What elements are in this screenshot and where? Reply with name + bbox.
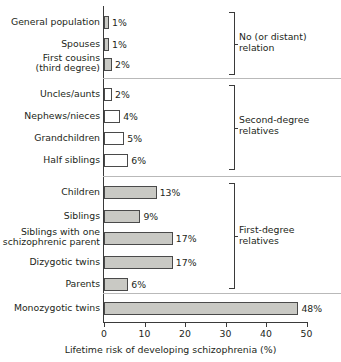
group-separator-2: [103, 176, 341, 177]
x-tick: [145, 322, 146, 327]
bar-row: Uncles/aunts2%: [0, 88, 341, 108]
category-label: First cousins (third degree): [0, 53, 100, 74]
bar-value-label: 6%: [131, 278, 146, 291]
schizophrenia-risk-bar-chart: General population1%Spouses1%First cousi…: [0, 0, 341, 362]
bar: [104, 58, 112, 71]
group-label: Second-degree relatives: [239, 114, 309, 136]
bar: [104, 186, 157, 199]
bar-row: Half siblings6%: [0, 154, 341, 174]
category-label: Parents: [0, 279, 100, 289]
group-label: First-degree relatives: [239, 224, 295, 246]
group-bracket-nub: [235, 236, 238, 237]
bar-value-label: 6%: [131, 154, 146, 167]
bar-row: Dizygotic twins17%: [0, 256, 341, 276]
category-label: Siblings: [0, 211, 100, 221]
bar: [104, 16, 109, 29]
x-tick-label: 0: [92, 328, 116, 339]
x-axis-line: [103, 322, 308, 323]
category-label: Monozygotic twins: [0, 303, 100, 313]
bar-value-label: 17%: [176, 232, 197, 245]
bar-value-label: 5%: [127, 132, 142, 145]
category-label: Dizygotic twins: [0, 257, 100, 267]
bar-value-label: 48%: [301, 302, 322, 315]
bar: [104, 110, 120, 123]
group-bracket-nub: [235, 128, 238, 129]
bar: [104, 154, 128, 167]
bar: [104, 302, 298, 315]
category-label: Grandchildren: [0, 133, 100, 143]
category-label: Uncles/aunts: [0, 89, 100, 99]
x-axis-title: Lifetime risk of developing schizophreni…: [0, 344, 341, 355]
category-label: Half siblings: [0, 155, 100, 165]
x-tick-label: 50: [295, 328, 319, 339]
bar-row: First cousins (third degree)2%: [0, 58, 341, 78]
x-tick: [226, 322, 227, 327]
x-tick: [266, 322, 267, 327]
category-label: Nephews/nieces: [0, 111, 100, 121]
bar: [104, 88, 112, 101]
x-tick: [104, 322, 105, 327]
bar-value-label: 9%: [143, 210, 158, 223]
category-label: Spouses: [0, 39, 100, 49]
group-label: No (or distant) relation: [239, 31, 307, 53]
x-tick-label: 30: [214, 328, 238, 339]
bar: [104, 210, 140, 223]
group-bracket-nub: [235, 44, 238, 45]
category-label: Siblings with one schizophrenic parent: [0, 227, 100, 248]
x-tick: [185, 322, 186, 327]
bar-row: Monozygotic twins48%: [0, 302, 341, 322]
bar-row: Parents6%: [0, 278, 341, 298]
bar-value-label: 2%: [115, 88, 130, 101]
x-tick-label: 40: [254, 328, 278, 339]
bar-value-label: 1%: [112, 38, 127, 51]
bar-row: Children13%: [0, 186, 341, 206]
category-label: General population: [0, 17, 100, 27]
bar-value-label: 17%: [176, 256, 197, 269]
bar: [104, 232, 173, 245]
bar-value-label: 13%: [160, 186, 181, 199]
bar: [104, 256, 173, 269]
category-label: Children: [0, 187, 100, 197]
bar-value-label: 2%: [115, 58, 130, 71]
bar: [104, 38, 109, 51]
bar-value-label: 4%: [123, 110, 138, 123]
group-separator-1: [103, 78, 341, 79]
x-tick-label: 20: [173, 328, 197, 339]
bar-value-label: 1%: [112, 16, 127, 29]
bar: [104, 278, 128, 291]
x-tick-label: 10: [133, 328, 157, 339]
x-tick: [307, 322, 308, 327]
bar: [104, 132, 124, 145]
